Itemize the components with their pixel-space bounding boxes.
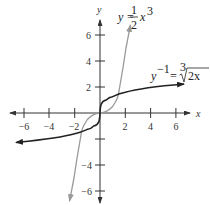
x-axis-label: x — [195, 108, 201, 119]
y-tick-label: 6 — [86, 30, 91, 41]
x-tick-label: −6 — [19, 121, 30, 132]
equation-cubic-label: y = 1 2 x 3 — [117, 3, 153, 32]
svg-text:2x: 2x — [188, 69, 200, 83]
x-tick-label: 6 — [173, 121, 178, 132]
svg-text:y: y — [150, 69, 157, 83]
curve-cube-root — [100, 84, 184, 113]
svg-text:3: 3 — [180, 60, 186, 74]
x-tick-label: −2 — [69, 121, 80, 132]
svg-text:x: x — [139, 10, 146, 24]
y-tick-label: 2 — [86, 82, 91, 93]
svg-text:−1: −1 — [157, 62, 170, 76]
y-tick-label: −4 — [81, 160, 92, 171]
x-tick-label: 2 — [123, 121, 128, 132]
y-axis-label: y — [96, 4, 102, 15]
svg-text:3: 3 — [147, 4, 153, 18]
y-tick-label: −6 — [81, 186, 92, 197]
x-tick-label: 4 — [148, 121, 153, 132]
svg-text:=: = — [170, 69, 177, 83]
equation-inverse-label: y −1 = 3 2x — [150, 60, 209, 83]
graph: −6 −4 −2 2 4 6 x 6 4 2 −4 −6 y y = 1 — [0, 0, 210, 205]
svg-text:2: 2 — [131, 18, 137, 32]
svg-text:1: 1 — [131, 3, 137, 17]
x-tick-label: −4 — [44, 121, 55, 132]
y-tick-label: 4 — [86, 56, 91, 67]
